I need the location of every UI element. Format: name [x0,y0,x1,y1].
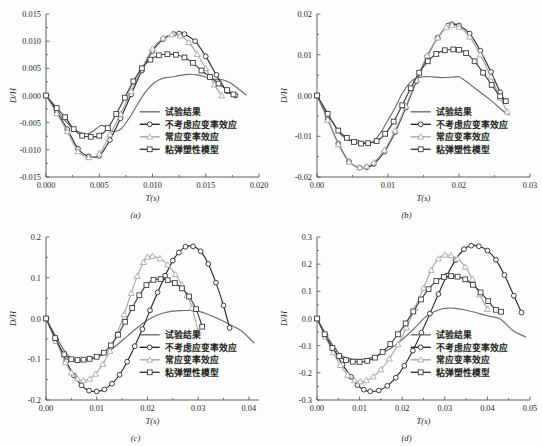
x-axis-title: T(s) [417,193,431,203]
y-axis-title: D/H [8,87,18,104]
svg-text:0.0: 0.0 [31,315,41,324]
panel-label: (d) [401,433,411,443]
figure-container: 0.0000.0050.0100.0150.020-0.015-0.010-0.… [0,0,542,446]
svg-text:0.015: 0.015 [196,181,215,190]
x-axis-ticks: 0.000.010.020.030.04 [39,397,257,414]
panel-b: 0.000.010.020.03-0.02-0.010.000.010.02试验… [271,0,542,223]
legend-label-test: 试验结果 [165,106,201,117]
x-axis-ticks: 0.0000.0050.0100.0150.020 [37,174,269,191]
svg-text:-0.2: -0.2 [299,369,312,378]
x-axis-ticks: 0.000.010.020.030.040.05 [310,397,538,414]
svg-text:-0.015: -0.015 [20,173,41,182]
svg-text:0.02: 0.02 [395,404,410,413]
panel-c: 0.000.010.020.030.04-0.2-0.10.00.10.2试验结… [0,223,271,446]
legend-label-const_rate: 常应变率效应 [165,131,219,142]
legend-label-no_rate: 不考虑应变率效应 [165,342,237,353]
panel-a: 0.0000.0050.0100.0150.020-0.015-0.010-0.… [0,0,271,223]
svg-text:0.010: 0.010 [143,181,162,190]
svg-text:0.00: 0.00 [310,181,325,190]
svg-text:0.1: 0.1 [31,274,41,283]
legend-label-test: 试验结果 [165,329,201,340]
legend-label-const_rate: 常应变率效应 [436,354,490,365]
svg-text:0.015: 0.015 [22,10,41,19]
legend-label-test: 试验结果 [436,106,472,117]
legend-label-no_rate: 不考虑应变率效应 [436,119,508,130]
svg-text:0.005: 0.005 [90,181,109,190]
legend-label-const_rate: 常应变率效应 [436,131,490,142]
svg-text:0.020: 0.020 [250,181,269,190]
svg-text:0.02: 0.02 [140,404,155,413]
svg-text:-0.01: -0.01 [295,132,312,141]
svg-text:-0.010: -0.010 [20,146,41,155]
legend: 试验结果不考虑应变率效应常应变率效应粘弹塑性模型 [140,329,237,378]
svg-text:0.02: 0.02 [452,181,467,190]
x-axis-ticks: 0.000.010.020.03 [310,174,538,191]
svg-text:-0.3: -0.3 [299,396,312,405]
svg-text:0.03: 0.03 [438,404,453,413]
svg-text:-0.005: -0.005 [20,119,41,128]
svg-text:0.05: 0.05 [523,404,538,413]
svg-text:0.2: 0.2 [302,260,312,269]
panel-label: (c) [131,433,141,443]
legend-label-test: 试验结果 [436,329,472,340]
svg-text:0.00: 0.00 [39,404,54,413]
svg-text:0.01: 0.01 [297,51,312,60]
svg-text:0.01: 0.01 [352,404,367,413]
svg-text:0.000: 0.000 [22,92,41,101]
svg-text:-0.1: -0.1 [28,355,41,364]
legend: 试验结果不考虑应变率效应常应变率效应粘弹塑性模型 [411,329,508,378]
legend: 试验结果不考虑应变率效应常应变率效应粘弹塑性模型 [411,106,508,155]
x-axis-title: T(s) [146,416,160,426]
legend-label-viscoelastic: 粘弹塑性模型 [165,367,219,378]
svg-text:0.03: 0.03 [191,404,206,413]
series-line-test [46,310,254,360]
y-axis-title: D/H [279,87,289,104]
panel-label: (b) [401,210,411,220]
legend: 试验结果不考虑应变率效应常应变率效应粘弹塑性模型 [140,106,237,155]
panel-label: (a) [130,210,140,220]
svg-text:-0.02: -0.02 [295,173,312,182]
svg-text:0.005: 0.005 [22,64,41,73]
panel-d: 0.000.010.020.030.040.05-0.3-0.2-0.10.00… [271,223,542,446]
svg-text:0.1: 0.1 [302,287,312,296]
svg-text:0.2: 0.2 [31,233,41,242]
svg-text:0.04: 0.04 [242,404,257,413]
svg-text:0.000: 0.000 [37,181,56,190]
y-axis-title: D/H [279,310,289,327]
svg-text:0.010: 0.010 [22,37,41,46]
legend-label-const_rate: 常应变率效应 [165,354,219,365]
x-axis-title: T(s) [146,193,160,203]
legend-label-viscoelastic: 粘弹塑性模型 [436,144,490,155]
svg-text:0.01: 0.01 [381,181,396,190]
x-axis-title: T(s) [417,416,431,426]
svg-text:0.03: 0.03 [523,181,538,190]
legend-label-no_rate: 不考虑应变率效应 [165,119,237,130]
y-axis-title: D/H [8,310,18,327]
svg-text:0.3: 0.3 [302,233,312,242]
svg-text:0.0: 0.0 [302,315,312,324]
legend-label-no_rate: 不考虑应变率效应 [436,342,508,353]
svg-text:0.00: 0.00 [297,92,312,101]
svg-text:-0.2: -0.2 [28,396,41,405]
svg-text:0.01: 0.01 [89,404,104,413]
svg-text:0.00: 0.00 [310,404,325,413]
svg-text:0.02: 0.02 [297,10,312,19]
svg-text:-0.1: -0.1 [299,342,312,351]
legend-label-viscoelastic: 粘弹塑性模型 [165,144,219,155]
svg-text:0.04: 0.04 [480,404,495,413]
legend-label-viscoelastic: 粘弹塑性模型 [436,367,490,378]
